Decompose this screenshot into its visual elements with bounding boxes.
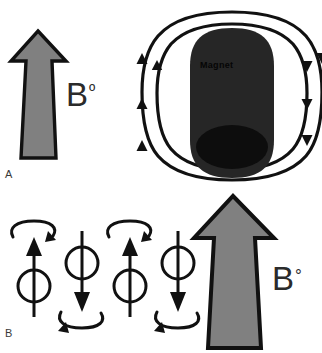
bulk-magnetization-arrow: [11, 31, 66, 158]
spin-symbol-2: [58, 231, 103, 333]
field-label-a-superscript: º: [89, 82, 95, 101]
field-label-b-base: B: [272, 260, 294, 297]
field-arrowhead-up-3: [137, 140, 148, 151]
field-label-b-superscript: °: [295, 266, 302, 285]
magnet-group: [190, 28, 274, 178]
magnet-caption: Magnet: [200, 60, 233, 70]
figure-canvas: Magnet Bº B° A B: [0, 0, 322, 353]
spin-arrowhead-down-4: [170, 292, 186, 312]
figure-svg: [0, 0, 322, 353]
external-field-arrow: [194, 196, 274, 348]
panel-label-b: B: [5, 327, 13, 339]
magnet-pole-face: [196, 125, 268, 169]
field-arrowhead-down-3: [302, 135, 313, 146]
panel-a-arrow-group: [11, 31, 66, 158]
field-label-b: B°: [272, 262, 302, 295]
field-arrowhead-down-2: [302, 99, 313, 110]
spin-symbol-4: [154, 231, 199, 333]
panel-b-arrow-group: [194, 196, 274, 348]
spin-arrowhead-up-1: [26, 237, 42, 256]
field-arrowhead-up-2: [137, 98, 148, 109]
spin-symbol-3: [108, 221, 152, 317]
panel-label-a: A: [5, 168, 13, 180]
spin-symbol-1: [12, 221, 56, 317]
spin-arrowhead-down-2: [74, 292, 90, 312]
spin-arrowhead-up-3: [122, 237, 138, 256]
field-label-a: Bº: [66, 78, 95, 111]
field-label-a-base: B: [66, 76, 88, 113]
spin-group: [12, 221, 199, 333]
